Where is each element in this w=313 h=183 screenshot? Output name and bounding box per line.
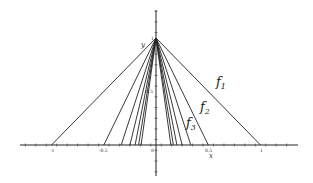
x-tick-label-neg1: -1 (50, 148, 55, 153)
label-f1: f1 (215, 74, 226, 91)
label-f2: f2 (199, 99, 210, 116)
y-tick-label-05: 0.5 (146, 89, 153, 94)
y-axis-label: y (140, 41, 146, 49)
label-f3: f3 (185, 115, 196, 132)
x-axis-label: x (209, 152, 213, 160)
x-tick-label-neg05: -0.5 (99, 148, 108, 153)
axes (20, 10, 298, 176)
x-tick-label-0: 0 (151, 148, 154, 153)
plot-canvas: -1 -0.5 0 0.5 1 x 1 0.5 y f1 f2 f3 (0, 0, 313, 183)
x-tick-label-1: 1 (260, 148, 263, 153)
y-tick-label-1: 1 (151, 36, 154, 41)
